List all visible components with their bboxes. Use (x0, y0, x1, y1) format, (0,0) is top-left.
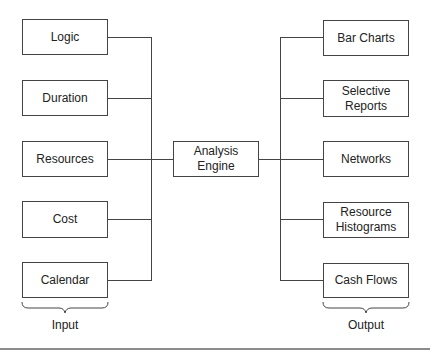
braces-layer (0, 0, 434, 356)
diagram-canvas: Logic Duration Resources Cost Calendar A… (0, 0, 434, 356)
output-group-label: Output (323, 318, 409, 332)
input-group-label: Input (22, 318, 108, 332)
input-brace-icon (22, 302, 108, 313)
output-brace-icon (323, 302, 409, 313)
